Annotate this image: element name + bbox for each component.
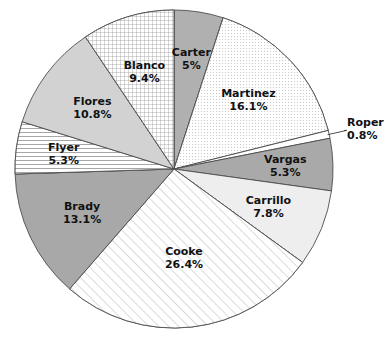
slice-label-percent-cooke: 26.4%	[165, 258, 203, 271]
slice-label-percent-flores: 10.8%	[73, 108, 111, 121]
slice-label-percent-carter: 5%	[182, 59, 201, 72]
slice-label-percent-blanco: 9.4%	[129, 72, 160, 85]
slice-label-name-flores: Flores	[73, 95, 112, 108]
pie-chart: Carter5%Martinez16.1%Roper0.8%Vargas5.3%…	[0, 0, 386, 340]
slice-label-percent-roper: 0.8%	[347, 129, 378, 142]
pie-leader-lines	[328, 130, 347, 134]
slice-label-name-brady: Brady	[64, 200, 100, 213]
slice-label-name-blanco: Blanco	[124, 59, 166, 72]
slice-label-name-carter: Carter	[172, 46, 212, 59]
slice-label-percent-vargas: 5.3%	[270, 166, 301, 179]
slice-label-percent-martinez: 16.1%	[229, 100, 267, 113]
slice-label-name-martinez: Martinez	[221, 87, 276, 100]
slice-label-name-vargas: Vargas	[264, 153, 307, 166]
slice-label-name-roper: Roper	[347, 116, 384, 129]
slice-label-percent-flyer: 5.3%	[48, 154, 79, 167]
leader-line-roper	[328, 130, 347, 134]
slice-label-name-carrillo: Carrillo	[246, 194, 292, 207]
slice-label-name-flyer: Flyer	[48, 141, 80, 154]
slice-label-name-cooke: Cooke	[165, 245, 203, 258]
slice-label-percent-brady: 13.1%	[63, 213, 101, 226]
pie-chart-svg: Carter5%Martinez16.1%Roper0.8%Vargas5.3%…	[0, 0, 386, 340]
slice-label-percent-carrillo: 7.8%	[253, 207, 284, 220]
